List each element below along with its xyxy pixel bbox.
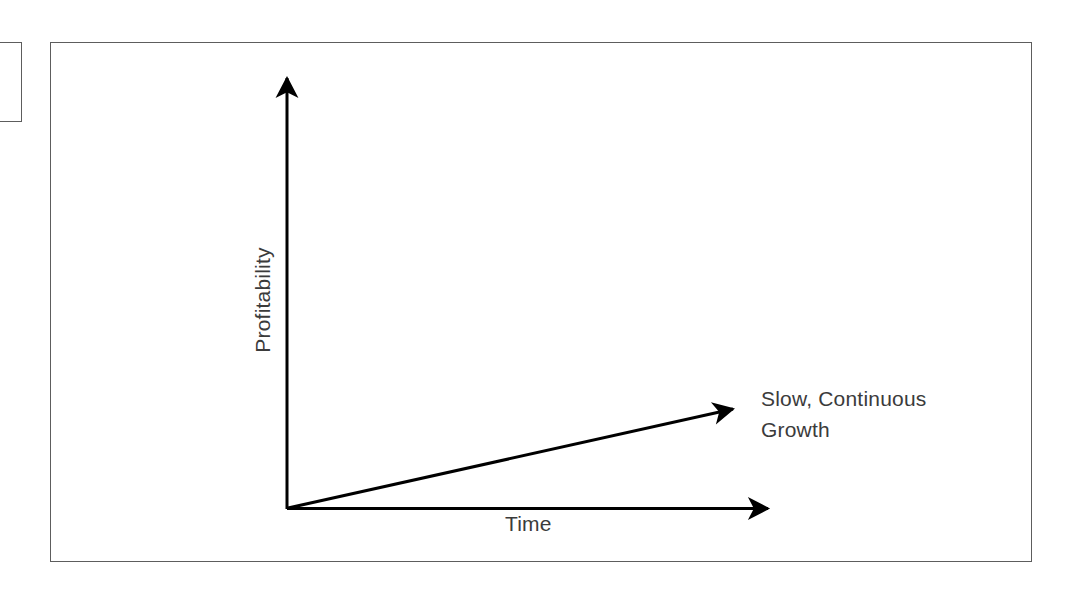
left-margin-box [0,42,22,122]
y-axis-label: Profitability [251,247,275,352]
slide-canvas: Time Profitability Slow, Continuous Grow… [0,0,1074,600]
growth-annotation-line-2: Growth [761,414,926,445]
growth-annotation: Slow, Continuous Growth [761,383,926,445]
figure-frame [50,42,1032,562]
growth-annotation-line-1: Slow, Continuous [761,383,926,414]
x-axis-label: Time [505,512,552,536]
